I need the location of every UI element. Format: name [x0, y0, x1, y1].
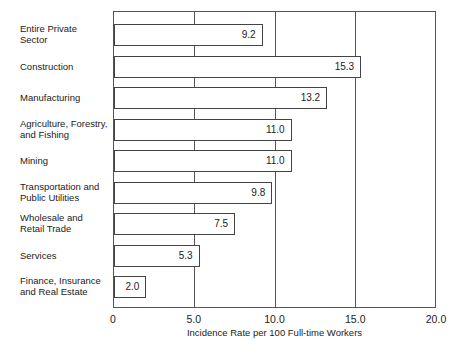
bar: 9.8	[114, 182, 272, 204]
bar: 11.0	[114, 119, 292, 141]
category-label: Transportation andPublic Utilities	[20, 181, 112, 203]
category-label: Entire PrivateSector	[20, 23, 112, 45]
bar: 9.2	[114, 24, 263, 46]
plot-area: 9.215.313.211.011.09.87.55.32.0	[113, 11, 436, 308]
category-label: Manufacturing	[20, 92, 112, 103]
bar-value-label: 5.3	[179, 250, 193, 261]
bar-value-label: 11.0	[266, 155, 285, 166]
bar-value-label: 15.3	[335, 61, 354, 72]
category-label: Finance, Insuranceand Real Estate	[20, 275, 112, 297]
bar-value-label: 11.0	[266, 124, 285, 135]
bar-value-label: 7.5	[214, 218, 228, 229]
bar: 5.3	[114, 245, 200, 267]
bar: 11.0	[114, 150, 292, 172]
x-axis-label: Incidence Rate per 100 Full-time Workers	[0, 327, 436, 338]
x-tick-label: 15.0	[345, 313, 365, 325]
bar: 13.2	[114, 87, 327, 109]
bar-value-label: 9.8	[251, 187, 265, 198]
bar-value-label: 9.2	[242, 29, 256, 40]
x-tick-label: 0	[110, 313, 116, 325]
category-label: Agriculture, Forestry,and Fishing	[20, 118, 112, 140]
bar-value-label: 13.2	[301, 92, 320, 103]
bar: 2.0	[114, 276, 146, 298]
category-label: Mining	[20, 155, 112, 166]
category-label: Construction	[20, 61, 112, 72]
x-tick-label: 20.0	[426, 313, 446, 325]
bar-value-label: 2.0	[125, 281, 139, 292]
category-label: Services	[20, 250, 112, 261]
category-label: Wholesale andRetail Trade	[20, 212, 112, 234]
bar: 7.5	[114, 213, 235, 235]
x-tick-label: 10.0	[264, 313, 284, 325]
bar: 15.3	[114, 56, 361, 78]
x-tick-label: 5.0	[186, 313, 201, 325]
